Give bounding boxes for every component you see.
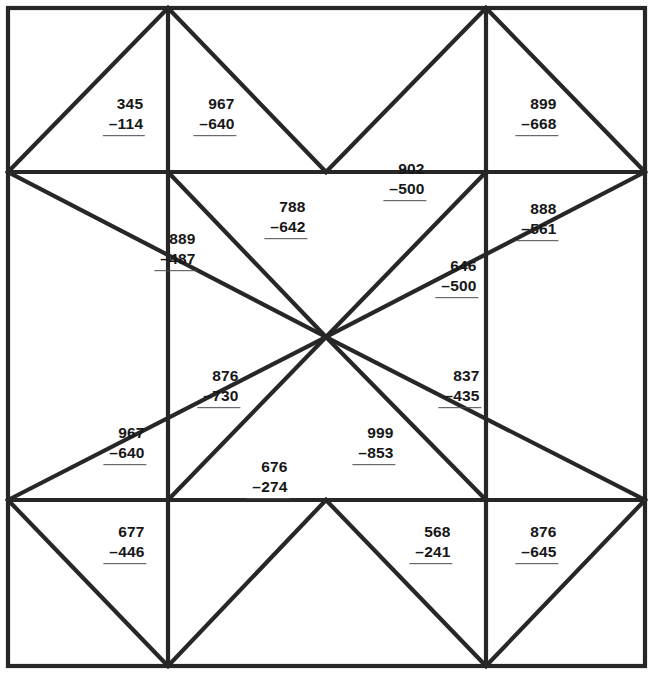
worksheet-canvas: 345–114967–640899–668902–500788–642888–5…: [0, 0, 652, 674]
subtraction-problem-p14[interactable]: 677–446: [103, 522, 146, 564]
subtrahend: –640: [193, 114, 236, 136]
quilt-segment-d-tl-in: [8, 8, 168, 172]
subtraction-problem-p06[interactable]: 888–561: [515, 199, 558, 241]
subtraction-problem-p12[interactable]: 999–853: [352, 423, 395, 465]
quilt-segment-d-br-in: [486, 500, 645, 666]
subtraction-problem-p16[interactable]: 876–645: [515, 522, 558, 564]
subtrahend: –435: [438, 386, 481, 408]
subtrahend: –668: [515, 114, 558, 136]
quilt-segment-d-bl-out: [168, 500, 326, 666]
subtrahend: –241: [409, 542, 452, 564]
subtraction-problem-p01[interactable]: 345–114: [103, 94, 145, 136]
quilt-segment-d-br-out: [326, 500, 486, 666]
subtraction-problem-p08[interactable]: 646–500: [435, 256, 478, 298]
minuend: 646: [435, 256, 478, 276]
minuend: 999: [352, 423, 395, 443]
subtrahend: –640: [103, 443, 146, 465]
minuend: 568: [409, 522, 452, 542]
minuend: 902: [383, 159, 426, 179]
subtraction-problem-p09[interactable]: 876–730: [197, 366, 240, 408]
subtrahend: –500: [435, 276, 478, 298]
minuend: 876: [515, 522, 558, 542]
minuend: 888: [515, 199, 558, 219]
subtrahend: –730: [197, 386, 240, 408]
minuend: 345: [103, 94, 145, 114]
subtrahend: –642: [264, 217, 307, 239]
minuend: 967: [103, 423, 146, 443]
quilt-segment-d-tr-in: [486, 8, 645, 172]
subtrahend: –645: [515, 542, 558, 564]
subtrahend: –274: [246, 477, 289, 499]
minuend: 889: [154, 229, 197, 249]
minuend: 967: [193, 94, 236, 114]
minuend: 677: [103, 522, 146, 542]
subtraction-problem-p11[interactable]: 967–640: [103, 423, 146, 465]
subtraction-problem-p15[interactable]: 568–241: [409, 522, 452, 564]
subtraction-problem-p05[interactable]: 788–642: [264, 197, 307, 239]
minuend: 837: [438, 366, 481, 386]
quilt-segment-d-tl-out: [168, 8, 326, 172]
minuend: 899: [515, 94, 558, 114]
quilt-segment-d-tr-out: [326, 8, 486, 172]
subtrahend: –114: [103, 114, 145, 136]
minuend: 788: [264, 197, 307, 217]
quilt-segment-d-center-br: [326, 337, 486, 500]
subtrahend: –561: [515, 219, 558, 241]
subtraction-problem-p03[interactable]: 899–668: [515, 94, 558, 136]
subtrahend: –853: [352, 443, 395, 465]
subtraction-problem-p07[interactable]: 889–487: [154, 229, 197, 271]
minuend: 676: [246, 457, 289, 477]
subtraction-problem-p02[interactable]: 967–640: [193, 94, 236, 136]
subtraction-problem-p13[interactable]: 676–274: [246, 457, 289, 499]
subtraction-problem-p04[interactable]: 902–500: [383, 159, 426, 201]
subtrahend: –446: [103, 542, 146, 564]
subtrahend: –500: [383, 179, 426, 201]
minuend: 876: [197, 366, 240, 386]
subtraction-problem-p10[interactable]: 837–435: [438, 366, 481, 408]
subtrahend: –487: [154, 249, 197, 271]
